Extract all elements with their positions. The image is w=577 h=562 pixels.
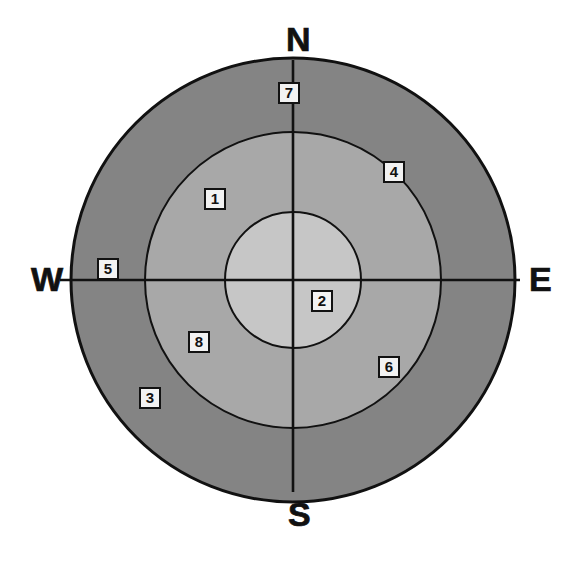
zone-label: 4 xyxy=(383,161,405,183)
compass-label-north: N xyxy=(286,22,310,56)
zone-label: 6 xyxy=(378,356,400,378)
zone-label: 2 xyxy=(311,290,333,312)
zone-label: 7 xyxy=(278,82,300,104)
compass-label-south: S xyxy=(288,497,310,531)
compass-label-east: E xyxy=(529,262,551,296)
zone-label: 5 xyxy=(97,258,119,280)
concentric-zone-diagram: N S E W 1 2 3 4 5 6 7 8 xyxy=(0,0,577,562)
zone-label: 1 xyxy=(204,188,226,210)
zone-label: 8 xyxy=(188,331,210,353)
compass-label-west: W xyxy=(31,262,63,296)
zone-label: 3 xyxy=(139,387,161,409)
